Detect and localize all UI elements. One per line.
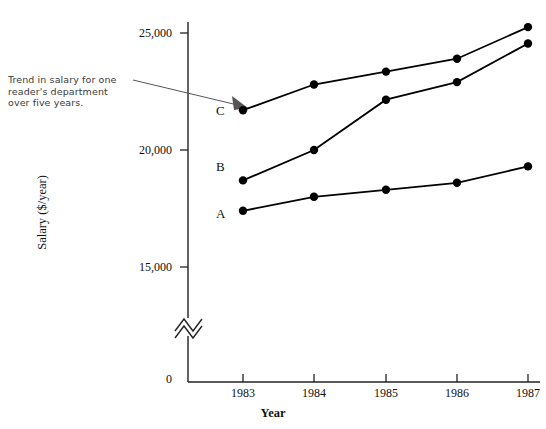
x-tick-label-1986: 1986 <box>427 386 487 401</box>
series-label-c: C <box>216 103 225 119</box>
y-tick-label-25000: 25,000 <box>96 26 172 41</box>
x-tick-label-1984: 1984 <box>284 386 344 401</box>
y-tick-label-20000: 20,000 <box>96 143 172 158</box>
x-tick-marks <box>243 374 528 382</box>
series-b-line <box>243 44 528 181</box>
axis-break-icon <box>175 319 202 338</box>
annotation-leader-line <box>133 80 248 110</box>
y-tick-marks <box>180 33 188 267</box>
chart-annotation: Trend in salary for one reader's departm… <box>8 74 128 109</box>
x-tick-label-1987: 1987 <box>498 386 546 401</box>
series-label-b: B <box>216 159 225 175</box>
x-tick-label-1983: 1983 <box>213 386 273 401</box>
x-axis-title: Year <box>0 406 546 421</box>
y-tick-label-15000: 15,000 <box>96 260 172 275</box>
series-label-a: A <box>216 206 225 222</box>
y-tick-label-0: 0 <box>96 372 172 387</box>
line-chart-plot <box>0 0 546 429</box>
x-tick-label-1985: 1985 <box>356 386 416 401</box>
y-axis-title: Salary ($/year) <box>35 143 50 283</box>
series-a-markers <box>239 162 532 215</box>
chart-container: Trend in salary for one reader's departm… <box>0 0 546 429</box>
